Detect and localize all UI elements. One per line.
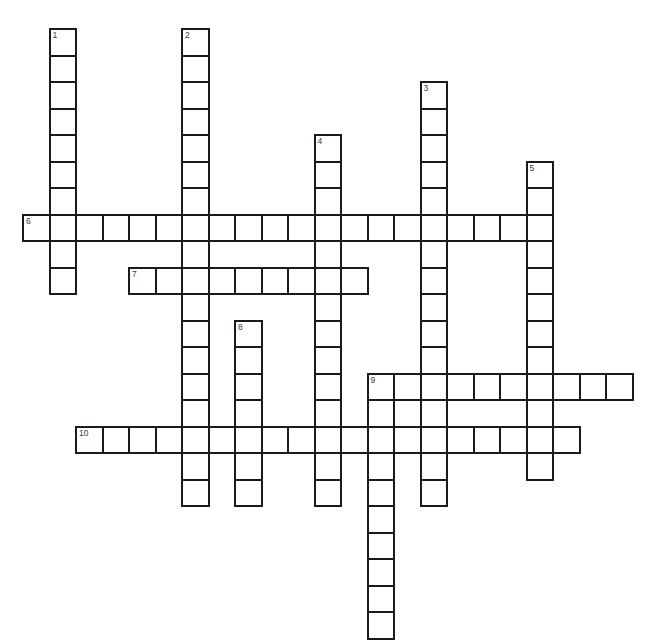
crossword-cell[interactable] (526, 399, 555, 428)
crossword-cell[interactable] (155, 426, 184, 455)
crossword-cell[interactable] (314, 293, 343, 322)
crossword-cell[interactable] (49, 55, 78, 84)
crossword-cell[interactable] (420, 399, 449, 428)
crossword-cell[interactable] (499, 426, 528, 455)
crossword-cell[interactable]: 6 (22, 214, 51, 243)
crossword-cell[interactable] (473, 373, 502, 402)
crossword-cell[interactable] (526, 187, 555, 216)
crossword-cell[interactable] (499, 214, 528, 243)
crossword-cell[interactable] (181, 240, 210, 269)
crossword-cell[interactable] (367, 532, 396, 561)
crossword-cell[interactable] (446, 426, 475, 455)
crossword-cell[interactable] (128, 214, 157, 243)
crossword-cell[interactable] (526, 267, 555, 296)
crossword-cell[interactable] (234, 452, 263, 481)
crossword-cell[interactable] (526, 293, 555, 322)
crossword-cell[interactable] (552, 373, 581, 402)
crossword-cell[interactable] (49, 240, 78, 269)
crossword-cell[interactable] (393, 426, 422, 455)
crossword-cell[interactable] (181, 452, 210, 481)
crossword-cell[interactable] (181, 81, 210, 110)
crossword-cell[interactable] (420, 134, 449, 163)
crossword-cell[interactable] (367, 452, 396, 481)
crossword-cell[interactable] (155, 214, 184, 243)
crossword-cell[interactable] (49, 161, 78, 190)
crossword-cell[interactable] (526, 240, 555, 269)
crossword-cell[interactable] (181, 293, 210, 322)
crossword-cell[interactable] (181, 161, 210, 190)
crossword-cell[interactable]: 10 (75, 426, 104, 455)
crossword-cell[interactable] (181, 214, 210, 243)
crossword-cell[interactable] (261, 267, 290, 296)
crossword-cell[interactable]: 7 (128, 267, 157, 296)
crossword-cell[interactable] (49, 214, 78, 243)
crossword-cell[interactable] (234, 426, 263, 455)
crossword-cell[interactable] (367, 611, 396, 640)
crossword-cell[interactable] (473, 426, 502, 455)
crossword-cell[interactable] (340, 214, 369, 243)
crossword-cell[interactable] (287, 267, 316, 296)
crossword-cell[interactable]: 9 (367, 373, 396, 402)
crossword-cell[interactable] (314, 373, 343, 402)
crossword-cell[interactable] (181, 399, 210, 428)
crossword-cell[interactable] (314, 161, 343, 190)
crossword-cell[interactable] (420, 452, 449, 481)
crossword-cell[interactable] (314, 240, 343, 269)
crossword-cell[interactable] (314, 479, 343, 508)
crossword-cell[interactable] (420, 426, 449, 455)
crossword-cell[interactable] (208, 267, 237, 296)
crossword-cell[interactable] (420, 320, 449, 349)
crossword-cell[interactable] (261, 426, 290, 455)
crossword-cell[interactable] (526, 320, 555, 349)
crossword-cell[interactable] (234, 399, 263, 428)
crossword-cell[interactable] (499, 373, 528, 402)
crossword-cell[interactable] (340, 267, 369, 296)
crossword-cell[interactable]: 1 (49, 28, 78, 57)
crossword-cell[interactable] (314, 426, 343, 455)
crossword-cell[interactable] (367, 479, 396, 508)
crossword-cell[interactable] (314, 187, 343, 216)
crossword-cell[interactable] (181, 108, 210, 137)
crossword-cell[interactable] (181, 320, 210, 349)
crossword-cell[interactable] (526, 373, 555, 402)
crossword-cell[interactable] (181, 426, 210, 455)
crossword-cell[interactable] (181, 346, 210, 375)
crossword-cell[interactable] (446, 214, 475, 243)
crossword-cell[interactable] (49, 187, 78, 216)
crossword-cell[interactable] (367, 426, 396, 455)
crossword-cell[interactable] (181, 55, 210, 84)
crossword-cell[interactable] (75, 214, 104, 243)
crossword-cell[interactable] (605, 373, 634, 402)
crossword-cell[interactable] (473, 214, 502, 243)
crossword-cell[interactable]: 5 (526, 161, 555, 190)
crossword-cell[interactable] (552, 426, 581, 455)
crossword-cell[interactable] (314, 214, 343, 243)
crossword-cell[interactable] (49, 108, 78, 137)
crossword-cell[interactable] (420, 240, 449, 269)
crossword-cell[interactable] (340, 426, 369, 455)
crossword-cell[interactable] (420, 373, 449, 402)
crossword-cell[interactable] (420, 214, 449, 243)
crossword-cell[interactable] (314, 399, 343, 428)
crossword-cell[interactable] (155, 267, 184, 296)
crossword-cell[interactable]: 3 (420, 81, 449, 110)
crossword-cell[interactable] (420, 108, 449, 137)
crossword-cell[interactable] (446, 373, 475, 402)
crossword-cell[interactable] (393, 214, 422, 243)
crossword-cell[interactable] (579, 373, 608, 402)
crossword-cell[interactable] (314, 346, 343, 375)
crossword-cell[interactable] (287, 214, 316, 243)
crossword-cell[interactable] (420, 187, 449, 216)
crossword-cell[interactable]: 2 (181, 28, 210, 57)
crossword-cell[interactable] (102, 426, 131, 455)
crossword-cell[interactable] (234, 267, 263, 296)
crossword-cell[interactable] (181, 187, 210, 216)
crossword-cell[interactable] (367, 505, 396, 534)
crossword-cell[interactable] (208, 426, 237, 455)
crossword-cell[interactable] (102, 214, 131, 243)
crossword-cell[interactable] (49, 134, 78, 163)
crossword-cell[interactable] (234, 214, 263, 243)
crossword-cell[interactable] (420, 479, 449, 508)
crossword-cell[interactable] (208, 214, 237, 243)
crossword-cell[interactable] (420, 293, 449, 322)
